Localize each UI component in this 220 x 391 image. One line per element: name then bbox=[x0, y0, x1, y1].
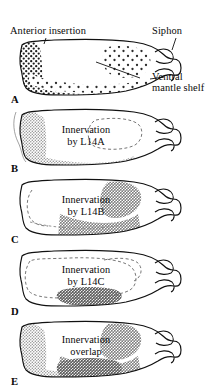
panel-e-caption-line1: Innervation bbox=[38, 334, 134, 346]
panel-e-caption-line2: overlap bbox=[38, 346, 134, 358]
panel-c-caption: Innervation by L14B bbox=[38, 194, 134, 218]
panel-c-caption-line1: Innervation bbox=[38, 194, 134, 206]
label-siphon: Siphon bbox=[152, 26, 182, 37]
panel-d-caption-line2: by L14C bbox=[38, 276, 134, 288]
panel-letter-a: A bbox=[11, 95, 19, 106]
panel-e-caption: Innervation overlap bbox=[38, 334, 134, 358]
panel-b-siphon-outline bbox=[155, 119, 173, 133]
anatomical-figure: Anterior insertion Siphon Ventral mantle… bbox=[0, 0, 220, 391]
leader-siphon bbox=[172, 38, 176, 50]
panel-letter-e: E bbox=[11, 377, 18, 388]
label-anterior-insertion: Anterior insertion bbox=[10, 26, 86, 37]
panel-c-siphon-outline bbox=[155, 189, 173, 203]
panel-d-ventral-patch bbox=[57, 287, 122, 306]
panel-d-caption: Innervation by L14C bbox=[38, 264, 134, 288]
panel-c-caption-line2: by L14B bbox=[38, 206, 134, 218]
panel-letter-b: B bbox=[11, 164, 18, 175]
panel-letter-c: C bbox=[11, 235, 19, 246]
panel-b-caption: Innervation by L14A bbox=[38, 124, 134, 148]
label-ventral-line2: mantle shelf bbox=[152, 83, 204, 94]
panel-d-caption-line1: Innervation bbox=[38, 264, 134, 276]
panel-letter-d: D bbox=[11, 307, 19, 318]
panel-a-siphon-outline bbox=[155, 49, 173, 63]
panel-e-siphon-outline bbox=[155, 331, 173, 345]
panel-b-caption-line1: Innervation bbox=[38, 124, 134, 136]
panel-d-siphon-outline bbox=[155, 260, 173, 274]
label-ventral-mantle-shelf: Ventral mantle shelf bbox=[152, 72, 204, 93]
panel-b-caption-line2: by L14A bbox=[38, 136, 134, 148]
